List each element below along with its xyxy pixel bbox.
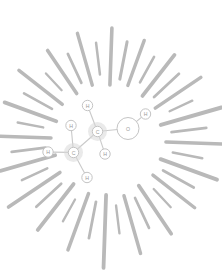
atom-h-h6: H — [140, 109, 150, 119]
burst-ray — [46, 73, 62, 90]
burst-ray — [116, 206, 119, 234]
burst-ray — [18, 122, 44, 127]
burst-ray — [110, 28, 112, 85]
molecule-atoms-group: CCOHHHHHH — [43, 100, 151, 182]
atom-label: O — [126, 126, 130, 132]
burst-ray — [153, 175, 195, 208]
atom-h-h5: H — [82, 172, 92, 182]
atom-label: H — [69, 123, 73, 129]
chemical-bond — [136, 117, 142, 122]
burst-ray — [96, 43, 100, 75]
atom-h-h2: H — [100, 149, 110, 159]
burst-ray — [172, 128, 207, 132]
burst-ray — [68, 194, 89, 250]
burst-ray — [154, 189, 171, 207]
atom-h-h1: H — [82, 100, 92, 110]
burst-ray — [140, 57, 154, 82]
burst-ray — [48, 50, 77, 93]
burst-ray — [0, 136, 51, 138]
burst-ray — [12, 148, 46, 152]
burst-ray — [104, 195, 107, 268]
atom-label: H — [103, 151, 107, 157]
burst-ray — [170, 101, 193, 112]
burst-ray — [142, 55, 174, 96]
burst-ray — [120, 42, 127, 79]
burst-ray — [24, 93, 52, 109]
burst-ray — [89, 202, 96, 238]
burst-ray — [135, 198, 149, 228]
burst-ray — [9, 172, 60, 207]
atom-label: C — [96, 129, 100, 135]
burst-ray — [155, 77, 201, 108]
atom-label: H — [46, 149, 50, 155]
atom-o-o1: O — [117, 118, 139, 140]
atom-label: H — [86, 103, 90, 109]
burst-ray — [19, 70, 62, 104]
atom-c-c1: C — [64, 143, 83, 162]
molecule-burst-figure: CCOHHHHHH — [0, 0, 222, 274]
atom-label: H — [85, 175, 89, 181]
burst-ray — [68, 54, 82, 83]
atom-label: H — [144, 111, 148, 117]
burst-ray — [38, 184, 74, 230]
burst-ray — [161, 159, 217, 180]
atom-c-c2: C — [88, 122, 107, 141]
atom-h-h4: H — [43, 147, 53, 157]
burst-ray — [166, 142, 222, 144]
atom-h-h3: H — [66, 120, 76, 130]
burst-rays-group — [0, 28, 222, 268]
burst-ray — [173, 153, 202, 159]
burst-ray — [22, 168, 47, 180]
figure-canvas: CCOHHHHHH — [0, 0, 222, 274]
burst-ray — [139, 186, 171, 234]
atom-label: C — [72, 150, 76, 156]
burst-ray — [5, 102, 57, 121]
burst-ray — [63, 199, 75, 221]
